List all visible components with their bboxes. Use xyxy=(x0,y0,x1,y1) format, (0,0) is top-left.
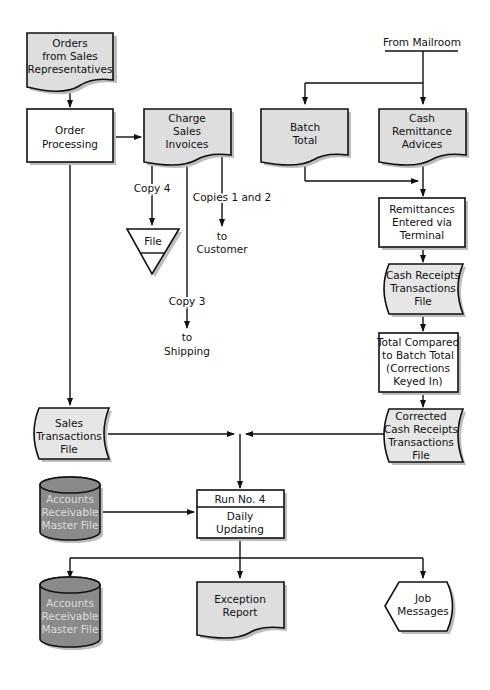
charge-invoices-label-2: Sales xyxy=(173,125,201,137)
cash-receipts-label-2: Transactions xyxy=(389,282,456,294)
ar-in-label-3: Master File xyxy=(42,519,99,531)
charge-invoices-label-3: Invoices xyxy=(165,138,208,150)
orders-label-3: Representatives xyxy=(28,63,113,75)
sales-file-label-1: Sales xyxy=(55,417,83,429)
exception-label-1: Exception xyxy=(214,593,266,605)
total-compared-label-4: Keyed In) xyxy=(393,375,442,387)
ar-in-label-1: Accounts xyxy=(46,493,94,505)
order-processing-box: Order Processing xyxy=(27,109,116,165)
cash-receipts-file: Cash Receipts Transactions File xyxy=(384,264,466,317)
copy4-label: Copy 4 xyxy=(134,182,171,194)
sales-transactions-file: Sales Transactions File xyxy=(34,408,112,462)
job-messages-label-1: Job xyxy=(414,592,432,604)
ar-out-label-2: Receivable xyxy=(41,610,98,622)
to-shipping-label-1: to xyxy=(182,331,193,343)
run-daily-updating-box: Run No. 4 Daily Updating xyxy=(197,490,287,541)
ar-master-file-output-disk: Accounts Receivable Master File xyxy=(40,577,103,650)
charge-invoices-document: Charge Sales Invoices xyxy=(144,109,234,168)
orders-label-1: Orders xyxy=(52,37,87,49)
file-offline-storage: File xyxy=(127,229,182,277)
orders-document: Orders from Sales Representatives xyxy=(27,33,117,94)
batch-total-label-1: Batch xyxy=(290,121,320,133)
batch-total-label-2: Total xyxy=(292,134,318,146)
copies12-label: Copies 1 and 2 xyxy=(193,191,271,203)
remittances-label-2: Entered via xyxy=(392,216,452,228)
remittances-label-3: Terminal xyxy=(399,229,444,241)
corrected-cash-receipts-file: Corrected Cash Receipts Transactions Fil… xyxy=(384,409,466,465)
run-label-2: Updating xyxy=(216,523,264,535)
run-label-1: Daily xyxy=(227,510,254,522)
order-processing-label-2: Processing xyxy=(42,138,98,150)
ar-out-label-3: Master File xyxy=(42,623,99,635)
sales-file-label-3: File xyxy=(60,443,78,455)
total-compared-label-2: to Batch Total xyxy=(382,349,454,361)
to-customer-label-1: to xyxy=(217,230,228,242)
remittances-label-1: Remittances xyxy=(389,203,454,215)
copy3-label: Copy 3 xyxy=(169,295,206,307)
cash-remittance-label-3: Advices xyxy=(402,138,443,150)
orders-label-2: from Sales xyxy=(42,50,98,62)
exception-report-document: Exception Report xyxy=(197,582,287,641)
cash-receipts-label-1: Cash Receipts xyxy=(386,269,460,281)
total-compared-box: Total Compared to Batch Total (Correctio… xyxy=(376,333,461,395)
cash-remittance-label-1: Cash xyxy=(409,112,435,124)
job-messages-label-2: Messages xyxy=(397,605,449,617)
order-processing-label-1: Order xyxy=(55,124,86,136)
remittances-entered-box: Remittances Entered via Terminal xyxy=(379,198,468,250)
corrected-label-1: Corrected xyxy=(395,410,446,422)
to-customer-label-2: Customer xyxy=(196,243,248,255)
ar-master-file-input-disk: Accounts Receivable Master File xyxy=(40,477,103,543)
exception-label-2: Report xyxy=(223,606,258,618)
from-mailroom-label: From Mailroom xyxy=(383,36,461,48)
run-header-label: Run No. 4 xyxy=(215,493,266,505)
total-compared-label-3: (Corrections xyxy=(386,362,450,374)
corrected-label-2: Cash Receipts xyxy=(384,423,458,435)
corrected-label-3: Transactions xyxy=(387,436,454,448)
to-shipping-label-2: Shipping xyxy=(164,345,210,357)
file-label: File xyxy=(144,235,162,247)
job-messages-display: Job Messages xyxy=(385,582,456,634)
batch-total-document: Batch Total xyxy=(261,109,351,168)
corrected-label-4: File xyxy=(412,449,430,461)
total-compared-label-1: Total Compared xyxy=(376,336,459,348)
charge-invoices-label-1: Charge xyxy=(168,112,206,124)
cash-remittance-document: Cash Remittance Advices xyxy=(379,109,469,168)
cash-remittance-label-2: Remittance xyxy=(392,125,452,137)
flowchart-canvas: Orders from Sales Representatives Order … xyxy=(0,0,490,690)
ar-out-label-1: Accounts xyxy=(46,597,94,609)
sales-file-label-2: Transactions xyxy=(35,430,102,442)
cash-receipts-label-3: File xyxy=(414,295,432,307)
ar-in-label-2: Receivable xyxy=(41,506,98,518)
